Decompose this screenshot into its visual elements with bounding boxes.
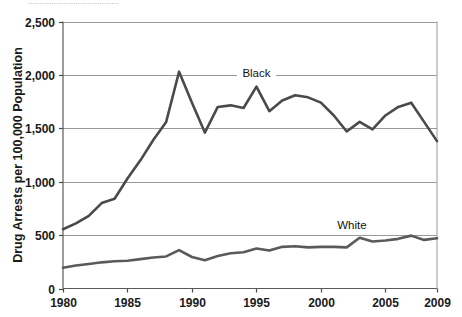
chart-background (0, 0, 462, 317)
series-annotation-black: Black (242, 67, 270, 79)
series-annotation-white: White (337, 219, 366, 231)
y-tick-label: 1,000 (25, 176, 55, 190)
x-tick-label: 1985 (114, 296, 141, 310)
y-tick-label: 1,500 (25, 122, 55, 136)
y-tick-label: 2,500 (25, 16, 55, 30)
chart-canvas: 05001,0001,5002,0002,500 198019851990199… (0, 0, 462, 317)
x-tick-label: 1980 (50, 296, 77, 310)
x-tick-label: 2000 (308, 296, 335, 310)
x-tick-label: 1995 (243, 296, 270, 310)
x-tick-label: 1990 (179, 296, 206, 310)
drug-arrests-line-chart: 05001,0001,5002,0002,500 198019851990199… (0, 0, 462, 317)
x-tick-label: 2005 (372, 296, 399, 310)
y-tick-label: 500 (35, 229, 55, 243)
x-tick-label: 2009 (424, 296, 451, 310)
y-tick-label: 2,000 (25, 69, 55, 83)
y-axis-title: Drug Arrests per 100,000 Population (11, 47, 25, 263)
